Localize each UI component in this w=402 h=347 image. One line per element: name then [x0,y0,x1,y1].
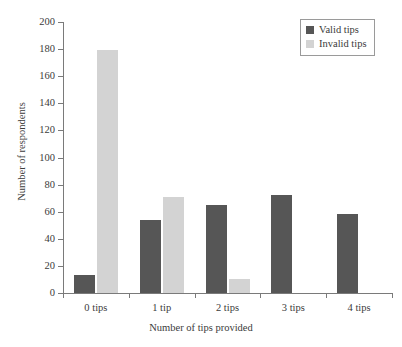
legend: Valid tipsInvalid tips [300,19,375,56]
x-tick-label: 4 tips [319,302,399,314]
y-tick-label: 120 [39,125,55,135]
legend-item: Valid tips [306,23,367,37]
x-tick-mark [392,293,393,298]
y-tick-label: 200 [39,17,55,27]
y-tick-label: 100 [39,153,55,163]
bar [140,220,161,293]
legend-label: Invalid tips [319,38,367,50]
x-tick-mark [326,293,327,298]
y-axis-title: Number of respondents [16,62,27,242]
x-axis-line [63,293,392,294]
x-tick-mark [260,293,261,298]
bar-chart-figure: 020406080100120140160180200 0 tips1 tip2… [0,0,402,347]
bar [271,195,292,293]
y-tick-label: 0 [50,288,55,298]
bar [74,275,95,293]
y-tick-label: 20 [45,261,56,271]
legend-item: Invalid tips [306,37,367,51]
y-tick-label: 160 [39,71,55,81]
x-tick-mark [129,293,130,298]
y-tick-label: 180 [39,44,55,54]
y-tick-label: 140 [39,98,55,108]
plot-area [63,22,392,293]
legend-label: Valid tips [319,24,359,36]
y-tick-label: 40 [45,234,56,244]
bar [337,214,358,293]
x-axis-title: Number of tips provided [0,322,402,333]
bar [163,197,184,293]
y-tick-label: 60 [45,207,56,217]
bar [97,50,118,293]
y-tick-label: 80 [45,180,56,190]
legend-swatch-icon [306,26,314,34]
bar [206,205,227,293]
legend-swatch-icon [306,40,314,48]
x-tick-mark [63,293,64,298]
bar [229,279,250,293]
x-tick-mark [195,293,196,298]
